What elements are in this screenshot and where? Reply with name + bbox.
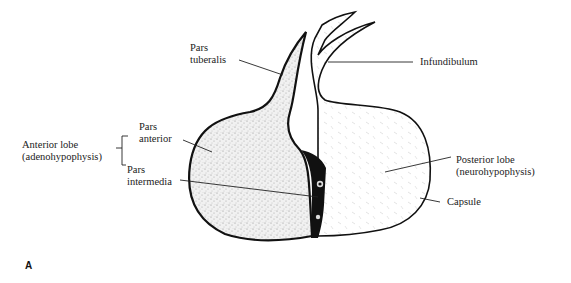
label-capsule: Capsule [447, 196, 481, 208]
label-pars-intermedia: Pars intermedia [127, 164, 172, 188]
leader-pars-tuberalis [239, 60, 283, 75]
label-infundibulum: Infundibulum [420, 56, 478, 68]
pituitary-diagram: Pars tuberalis Infundibulum Pars anterio… [0, 0, 571, 283]
posterior-lobe-shape [311, 12, 430, 236]
label-pars-tuberalis: Pars tuberalis [190, 42, 226, 66]
label-pars-anterior: Pars anterior [139, 121, 172, 145]
anterior-lobe-bracket [122, 136, 128, 165]
label-posterior-lobe: Posterior lobe (neurohypophysis) [456, 154, 535, 178]
label-anterior-lobe: Anterior lobe (adenohypophysis) [22, 139, 102, 163]
panel-label: A [25, 260, 32, 271]
